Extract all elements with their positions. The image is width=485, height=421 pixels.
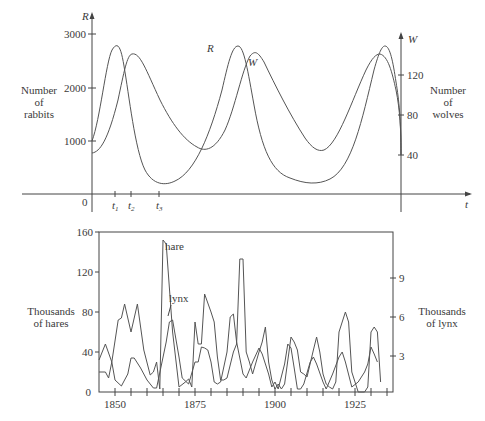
- top-chart: R 3000 2000 1000 Number of rabbits t 0 t…: [21, 10, 472, 213]
- w-tick-120: 120: [407, 69, 424, 81]
- lynx-tick-3: 3: [399, 350, 405, 362]
- t-axis-arrow-icon: [465, 192, 472, 197]
- top-origin: 0: [82, 196, 88, 208]
- year-1875: 1875: [184, 398, 207, 410]
- hares-label-line1: Thousands: [27, 305, 75, 317]
- r-axis-symbol: R: [81, 10, 89, 22]
- hare-tick-120: 120: [77, 266, 94, 278]
- r-curve-label: R: [206, 42, 214, 54]
- lynx-tick-6: 6: [399, 311, 405, 323]
- w-curve-label: W: [248, 56, 258, 68]
- w-tick-40: 40: [407, 149, 419, 161]
- hare-tick-160: 160: [77, 226, 94, 238]
- year-1850: 1850: [104, 398, 127, 410]
- lynx-tick-9: 9: [399, 272, 405, 284]
- t-axis-symbol: t: [465, 198, 469, 210]
- wolf-curve: [92, 53, 401, 155]
- rabbit-curve: [92, 46, 401, 184]
- wolves-label-line3: wolves: [432, 108, 463, 120]
- rabbits-label-line3: rabbits: [24, 108, 54, 120]
- t2-label: t2: [128, 199, 135, 213]
- r-tick-1000: 1000: [64, 135, 87, 147]
- rabbits-label-line1: Number: [21, 84, 57, 96]
- t1-label: t1: [112, 199, 119, 213]
- hare-tick-80: 80: [82, 306, 94, 318]
- plot-frame: [99, 232, 393, 392]
- lynx-annotation: lynx: [169, 292, 189, 304]
- wolves-label-line1: Number: [430, 84, 466, 96]
- r-axis-arrow-icon: [90, 12, 95, 19]
- hare-tick-40: 40: [82, 346, 94, 358]
- year-1925: 1925: [344, 398, 367, 410]
- r-tick-2000: 2000: [64, 82, 87, 94]
- bottom-chart: 160 120 80 40 0 Thousands of hares 9 6 3…: [27, 226, 466, 410]
- hare-annotation: hare: [165, 240, 184, 252]
- w-axis-symbol: W: [408, 33, 418, 45]
- lynx-label-line2: of lynx: [426, 317, 458, 329]
- t3-label: t3: [156, 199, 163, 213]
- bottom-origin: 0: [86, 386, 92, 398]
- r-tick-3000: 3000: [64, 28, 87, 40]
- rabbits-label-line2: of: [34, 96, 44, 108]
- figure: R 3000 2000 1000 Number of rabbits t 0 t…: [0, 0, 485, 421]
- w-axis-arrow-icon: [399, 32, 404, 39]
- wolves-label-line2: of: [443, 96, 453, 108]
- lynx-label-line1: Thousands: [418, 305, 466, 317]
- w-tick-80: 80: [407, 109, 419, 121]
- year-1900: 1900: [264, 398, 287, 410]
- hares-label-line2: of hares: [33, 317, 68, 329]
